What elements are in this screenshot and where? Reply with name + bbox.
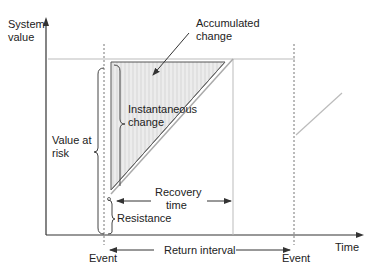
x-axis-arrow-icon (356, 232, 364, 238)
recovery-label-1: Recovery (155, 186, 202, 198)
y-axis-label-1: System (8, 18, 45, 30)
x-axis-label: Time (335, 241, 359, 253)
accumulated-label-1: Accumulated (196, 17, 260, 29)
second-recovery-trajectory (296, 93, 342, 135)
resilience-diagram: System value Time Accumulated change Ins… (0, 0, 373, 279)
value-at-risk-brace (94, 68, 104, 234)
recovery-label-2: time (166, 199, 187, 211)
resistance-brace (108, 200, 115, 234)
instantaneous-label-2: change (128, 116, 164, 128)
value-at-risk-label-1: Value at (52, 134, 92, 146)
value-at-risk-label-2: risk (52, 147, 70, 159)
accumulated-label-2: change (196, 30, 232, 42)
instantaneous-label-1: Instantaneous (128, 103, 198, 115)
event-label-1: Event (89, 252, 117, 264)
return-interval-label: Return interval (164, 244, 236, 256)
y-axis-label-2: value (8, 31, 34, 43)
event-label-2: Event (282, 252, 310, 264)
resistance-label: Resistance (117, 212, 171, 224)
